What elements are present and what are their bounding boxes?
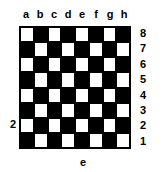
square-b7[interactable]	[34, 42, 48, 57]
square-fill	[104, 119, 116, 132]
file-callout-bottom: e	[76, 155, 90, 169]
square-c7[interactable]	[48, 42, 62, 57]
square-fill	[76, 119, 88, 132]
square-fill	[21, 28, 33, 41]
square-f1[interactable]	[89, 133, 103, 148]
square-d6[interactable]	[61, 57, 75, 72]
square-b3[interactable]	[34, 103, 48, 118]
square-d2[interactable]	[61, 118, 75, 133]
square-e3[interactable]	[75, 103, 89, 118]
square-h8[interactable]	[116, 27, 130, 42]
square-a5[interactable]	[20, 72, 34, 87]
square-g6[interactable]	[103, 57, 117, 72]
square-b6[interactable]	[34, 57, 48, 72]
square-b1[interactable]	[34, 133, 48, 148]
square-h3[interactable]	[116, 103, 130, 118]
square-h7[interactable]	[116, 42, 130, 57]
square-fill	[117, 73, 129, 86]
square-fill	[90, 104, 102, 117]
square-e1[interactable]	[75, 133, 89, 148]
rank-label-8: 8	[135, 26, 151, 41]
square-f8[interactable]	[89, 27, 103, 42]
square-f4[interactable]	[89, 88, 103, 103]
square-fill	[90, 43, 102, 56]
square-fill	[49, 119, 61, 132]
square-e7[interactable]	[75, 42, 89, 57]
square-c6[interactable]	[48, 57, 62, 72]
square-h6[interactable]	[116, 57, 130, 72]
square-g7[interactable]	[103, 42, 117, 57]
square-fill	[62, 134, 74, 147]
square-d7[interactable]	[61, 42, 75, 57]
square-g8[interactable]	[103, 27, 117, 42]
rank-label-3: 3	[135, 103, 151, 118]
square-e6[interactable]	[75, 57, 89, 72]
square-a7[interactable]	[20, 42, 34, 57]
square-fill	[21, 119, 33, 132]
square-fill	[62, 104, 74, 117]
square-fill	[76, 28, 88, 41]
square-g5[interactable]	[103, 72, 117, 87]
square-a6[interactable]	[20, 57, 34, 72]
rank-label-1: 1	[135, 134, 151, 149]
rank-label-2: 2	[135, 118, 151, 133]
rank-label-column: 87654321	[135, 26, 151, 149]
rank-callout-left: 2	[7, 117, 19, 131]
square-f5[interactable]	[89, 72, 103, 87]
square-fill	[21, 89, 33, 102]
square-g4[interactable]	[103, 88, 117, 103]
square-d1[interactable]	[61, 133, 75, 148]
square-a3[interactable]	[20, 103, 34, 118]
square-c5[interactable]	[48, 72, 62, 87]
square-c1[interactable]	[48, 133, 62, 148]
square-a2[interactable]	[20, 118, 34, 133]
square-b4[interactable]	[34, 88, 48, 103]
square-fill	[49, 28, 61, 41]
square-f6[interactable]	[89, 57, 103, 72]
rank-label-5: 5	[135, 72, 151, 87]
square-fill	[76, 89, 88, 102]
square-d3[interactable]	[61, 103, 75, 118]
square-fill	[35, 134, 47, 147]
square-g1[interactable]	[103, 133, 117, 148]
square-b5[interactable]	[34, 72, 48, 87]
square-e2[interactable]	[75, 118, 89, 133]
square-a8[interactable]	[20, 27, 34, 42]
square-b2[interactable]	[34, 118, 48, 133]
file-label-e: e	[75, 6, 89, 22]
square-g2[interactable]	[103, 118, 117, 133]
square-e8[interactable]	[75, 27, 89, 42]
square-a4[interactable]	[20, 88, 34, 103]
square-e5[interactable]	[75, 72, 89, 87]
square-h1[interactable]	[116, 133, 130, 148]
square-d4[interactable]	[61, 88, 75, 103]
file-label-b: b	[33, 6, 47, 22]
square-h5[interactable]	[116, 72, 130, 87]
square-d8[interactable]	[61, 27, 75, 42]
square-a1[interactable]	[20, 133, 34, 148]
square-c3[interactable]	[48, 103, 62, 118]
square-g3[interactable]	[103, 103, 117, 118]
square-f7[interactable]	[89, 42, 103, 57]
square-d5[interactable]	[61, 72, 75, 87]
square-c2[interactable]	[48, 118, 62, 133]
square-e4[interactable]	[75, 88, 89, 103]
file-label-d: d	[61, 6, 75, 22]
square-fill	[104, 58, 116, 71]
square-h4[interactable]	[116, 88, 130, 103]
square-c4[interactable]	[48, 88, 62, 103]
square-f2[interactable]	[89, 118, 103, 133]
square-h2[interactable]	[116, 118, 130, 133]
file-label-g: g	[103, 6, 117, 22]
chessboard-grid[interactable]	[19, 26, 131, 149]
square-fill	[49, 89, 61, 102]
square-f3[interactable]	[89, 103, 103, 118]
square-fill	[62, 43, 74, 56]
square-fill	[104, 28, 116, 41]
file-label-c: c	[47, 6, 61, 22]
chessboard-diagram: abcdefgh 87654321 2 e	[0, 0, 162, 172]
square-fill	[62, 73, 74, 86]
square-c8[interactable]	[48, 27, 62, 42]
square-fill	[117, 104, 129, 117]
square-b8[interactable]	[34, 27, 48, 42]
